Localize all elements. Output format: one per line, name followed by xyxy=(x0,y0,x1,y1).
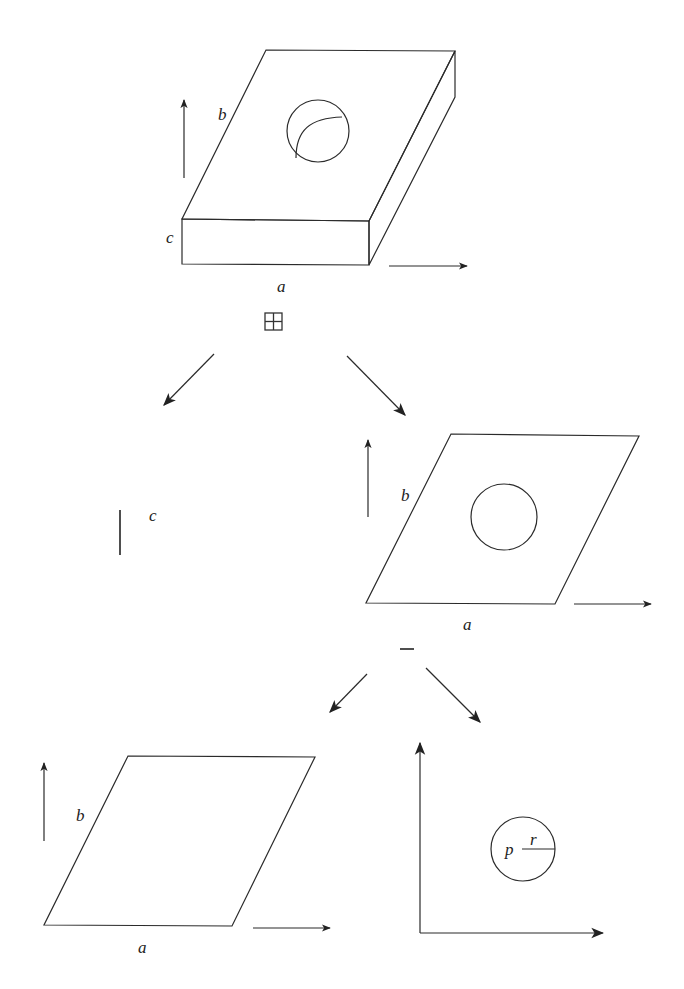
disk: p r xyxy=(420,743,603,933)
label-b: b xyxy=(218,105,227,124)
arrow-to-disk xyxy=(426,668,480,722)
parallelogram-outline xyxy=(44,756,315,926)
parallelogram: b a xyxy=(44,756,330,957)
label-a: a xyxy=(277,277,286,296)
arrow-to-plate-with-hole xyxy=(347,356,405,415)
plate-top-face xyxy=(182,50,455,221)
label-a: a xyxy=(138,938,147,957)
plate-with-hole-circle xyxy=(471,484,537,550)
label-a: a xyxy=(463,615,472,634)
label-c: c xyxy=(166,228,174,247)
segment: c xyxy=(120,506,157,555)
plate-hole-inner-wall xyxy=(296,117,342,158)
product-operator-icon xyxy=(265,313,282,330)
label-c: c xyxy=(149,506,157,525)
label-b: b xyxy=(401,486,410,505)
plate-front-face xyxy=(182,219,369,265)
plate-with-hole: b a xyxy=(366,434,651,634)
decomposition-diagram: b c a c b a b a xyxy=(0,0,684,989)
arrow-to-parallelogram xyxy=(330,674,367,712)
plate-right-face xyxy=(369,51,455,265)
solid-plate: b c a xyxy=(166,50,467,296)
plate-with-hole-outline xyxy=(366,434,639,604)
label-r: r xyxy=(530,830,537,849)
label-p: p xyxy=(504,840,514,859)
arrow-to-segment xyxy=(164,354,214,405)
label-b: b xyxy=(76,806,85,825)
